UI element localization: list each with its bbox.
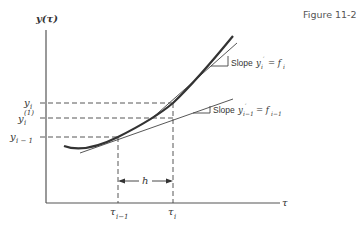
- step-size-arrow: h: [118, 175, 173, 186]
- tick-sub: i − 1: [16, 137, 33, 145]
- euler-method-diagram: y(τ) τ Slope y i ′ = f i Slope y i−1 ′ =…: [0, 0, 363, 230]
- tick-label-tau-im1: τ i−1: [110, 206, 129, 221]
- y-axis-label: y(τ): [35, 13, 58, 24]
- slope-rhs: = f: [256, 105, 271, 115]
- slope-sub: i−1: [243, 110, 254, 117]
- slope-label-lower: Slope y i−1 ′ = f i−1: [213, 102, 282, 117]
- slope-label-upper: Slope y i ′ = f i: [231, 55, 285, 70]
- tick-base: y: [23, 97, 30, 108]
- slope-sub: i: [261, 63, 263, 70]
- tick-sub: i: [24, 119, 26, 127]
- x-axis-label: τ: [282, 197, 288, 208]
- tick-label-tau-i: τ i: [168, 206, 176, 221]
- tick-base: y: [17, 113, 24, 124]
- tick-base: y: [9, 131, 16, 142]
- step-size-label: h: [142, 175, 148, 186]
- tick-sub: i: [174, 213, 176, 221]
- slope-rhs-sub: i: [283, 63, 285, 70]
- tick-sup: (1): [24, 109, 34, 117]
- tick-label-y-i1: y i (1): [17, 109, 34, 127]
- slope-word: Slope: [213, 105, 235, 115]
- slope-rhs: = f: [268, 58, 283, 68]
- arrow-head-left: [118, 179, 125, 184]
- slope-prime: ′: [263, 55, 265, 62]
- solution-curve: [64, 36, 233, 148]
- slope-rhs-sub: i−1: [271, 110, 282, 117]
- tick-label-y-im1: y i − 1: [9, 131, 33, 145]
- arrow-head-right: [166, 179, 173, 184]
- slope-triangle-upper: [211, 56, 228, 66]
- tick-sub: i−1: [116, 213, 129, 221]
- figure-label: Figure 11-2: [303, 9, 357, 20]
- slope-prime: ′: [245, 102, 247, 109]
- slope-word: Slope: [231, 58, 253, 68]
